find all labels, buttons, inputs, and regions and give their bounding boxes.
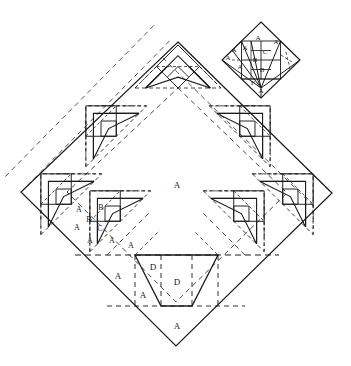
label-left-a2: A (74, 223, 80, 232)
crease-pattern-canvas: AABBCAAAAADDAA AAAACBAABFA (0, 0, 351, 366)
label-trap-a: A (140, 290, 147, 300)
label-left-b2: B (86, 215, 91, 224)
corner-module-east (252, 143, 343, 234)
label-center-a: A (174, 180, 181, 190)
corner-module-northeast (209, 75, 300, 166)
label-bot-apex-a: A (174, 321, 181, 331)
label-trap-d1: D (150, 262, 157, 272)
label-left-c1: C (97, 224, 102, 233)
label-ins-a-top: A (255, 34, 260, 42)
label-trap-d2: D (174, 277, 181, 287)
label-bot-a-left: A (115, 271, 122, 281)
corner-module-northwest (55, 75, 146, 166)
label-left-a1: A (76, 205, 82, 214)
corner-module-top (135, 45, 221, 88)
label-left-b1: B (98, 203, 103, 212)
crease-pattern-figure: AABBCAAAAADDAA AAAACBAABFA (0, 0, 351, 366)
inset-detail-diamond (222, 22, 300, 98)
edge-band-northeast (163, 42, 332, 209)
label-left-a4: A (109, 236, 115, 245)
label-left-a5: A (128, 241, 134, 250)
label-left-a3: A (87, 236, 93, 245)
edge-band-northwest (5, 23, 172, 192)
label-ins-c: C (263, 48, 268, 56)
